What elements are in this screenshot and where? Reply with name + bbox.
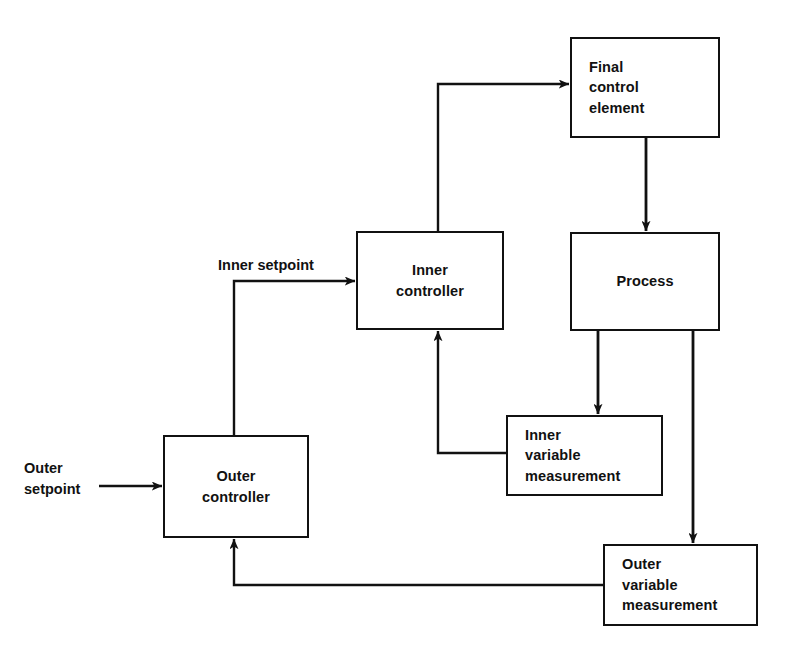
connection-inner-variable-measurement-to-inner-controller [438,331,506,453]
node-inner-variable-measurement[interactable]: Inner variable measurement [506,415,663,496]
inner-setpoint-label: Inner setpoint [218,255,314,276]
node-process[interactable]: Process [570,232,720,331]
outer-setpoint-label: Outer setpoint [24,458,80,499]
connection-outer-variable-measurement-to-outer-controller [234,539,603,585]
node-inner-controller[interactable]: Inner controller [356,231,504,330]
node-inner-controller-label: Inner controller [396,260,464,301]
connection-inner-controller-to-final-control-element [438,84,569,231]
node-outer-variable-measurement-label: Outer variable measurement [605,554,717,616]
node-final-control-element[interactable]: Final control element [570,37,720,138]
node-outer-controller-label: Outer controller [202,466,270,507]
node-outer-controller[interactable]: Outer controller [163,435,309,538]
connection-outer-controller-to-inner-controller [234,281,355,435]
node-outer-variable-measurement[interactable]: Outer variable measurement [603,544,758,626]
node-inner-variable-measurement-label: Inner variable measurement [508,425,620,487]
node-process-label: Process [616,271,673,292]
node-final-control-element-label: Final control element [572,57,645,119]
block-diagram: Final control element Process Inner cont… [0,0,786,650]
